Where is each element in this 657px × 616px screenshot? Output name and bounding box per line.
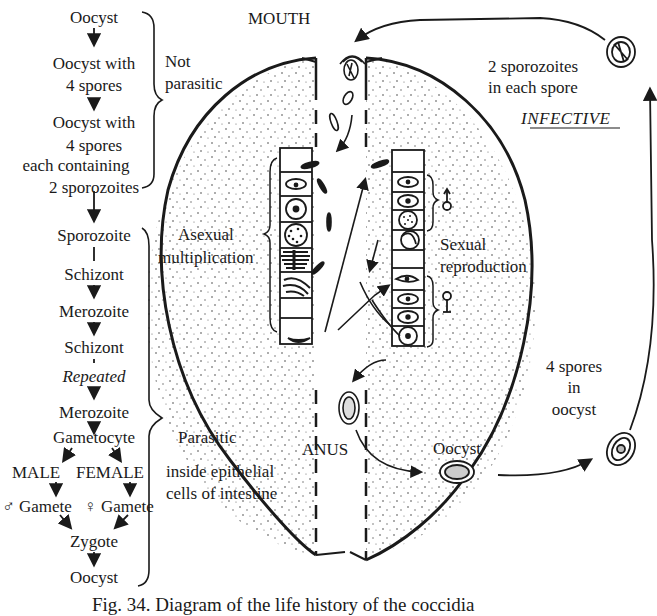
sexual-label-1: Sexual bbox=[440, 235, 486, 254]
asexual-label-2: multiplication bbox=[158, 248, 253, 267]
flow-step-4-spores: 4 spores bbox=[66, 76, 122, 95]
infective-note-1: 2 sporozoites bbox=[488, 57, 578, 76]
spores-note-1: 4 spores bbox=[546, 357, 602, 376]
flow-step-merozoite: Merozoite bbox=[59, 302, 129, 321]
flow-step-each-containing: each containing bbox=[22, 156, 129, 175]
male-label: MALE bbox=[12, 463, 60, 482]
flow-step-schizont: Schizont bbox=[64, 265, 124, 284]
infective-label: INFECTIVE bbox=[521, 109, 611, 128]
flow-step-schizont-2: Schizont bbox=[64, 338, 124, 357]
spores-note-2: in bbox=[567, 378, 580, 397]
female-label: FEMALE bbox=[76, 463, 144, 482]
flow-step-oocyst-with: Oocyst with bbox=[53, 54, 136, 73]
mouth-label: MOUTH bbox=[248, 9, 310, 28]
flow-step-oocyst: Oocyst bbox=[70, 8, 118, 27]
flow-step-2-sporozoites: 2 sporozoites bbox=[49, 178, 139, 197]
asexual-label-1: Asexual bbox=[178, 225, 234, 244]
flow-step-gametocyte: Gametocyte bbox=[53, 428, 135, 447]
anus-label: ANUS bbox=[302, 440, 348, 459]
not-parasitic-label-2: parasitic bbox=[165, 74, 223, 93]
parasitic-note-2: cells of intestine bbox=[166, 484, 277, 503]
flow-step-sporozoite: Sporozoite bbox=[57, 226, 131, 245]
male-gamete: ♂ Gamete bbox=[2, 497, 72, 516]
spores-note-3: oocyst bbox=[552, 400, 596, 419]
infective-note-2: in each spore bbox=[488, 78, 578, 97]
parasitic-label: Parasitic bbox=[178, 428, 237, 447]
zygote: Zygote bbox=[70, 532, 118, 551]
flow-step-merozoite-2: Merozoite bbox=[59, 403, 129, 422]
female-gamete: ♀ Gamete bbox=[84, 497, 154, 516]
figure-caption: Fig. 34. Diagram of the life history of … bbox=[92, 594, 475, 616]
parasitic-note-1: inside epithelial bbox=[166, 462, 274, 481]
flow-step-4-spores-2: 4 spores bbox=[66, 136, 122, 155]
flow-step-oocyst-with-2: Oocyst with bbox=[53, 113, 136, 132]
flow-step-repeated: Repeated bbox=[62, 367, 125, 386]
final-oocyst: Oocyst bbox=[70, 568, 118, 587]
not-parasitic-label-1: Not bbox=[165, 52, 191, 71]
sexual-label-2: reproduction bbox=[440, 257, 527, 276]
oocyst-label: Oocyst bbox=[433, 439, 481, 458]
